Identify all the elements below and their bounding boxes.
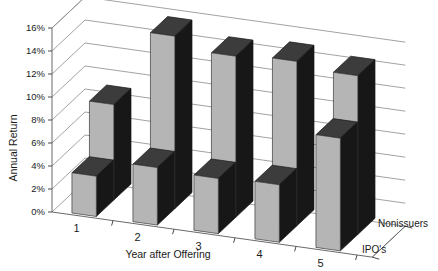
bar-ipos-year-2: [133, 148, 175, 225]
x-tick-label-year-1: 1: [73, 222, 79, 234]
chart-container: 0%2%4%6%8%10%12%14%16% 12345 Annual Retu…: [0, 0, 438, 271]
y-tick-label: 8%: [31, 114, 45, 125]
y-tick-label: 6%: [31, 137, 45, 148]
y-axis-tick-labels: 0%2%4%6%8%10%12%14%16%: [26, 22, 52, 217]
y-tick-label: 10%: [26, 91, 46, 102]
bar-ipos-year-3: [194, 159, 236, 234]
y-tick-label: 12%: [26, 68, 46, 79]
x-tick-label-year-5: 5: [317, 257, 323, 269]
y-tick-label: 4%: [31, 160, 45, 171]
series-label-nonissuers: Nonissuers: [378, 218, 428, 229]
x-tick-label-year-4: 4: [256, 248, 262, 260]
x-axis-title: Year after Offering: [125, 248, 210, 260]
y-axis-title: Annual Return: [7, 114, 19, 181]
bar-ipos-year-1: [72, 157, 114, 217]
y-tick-label: 0%: [31, 206, 45, 217]
y-tick-label: 14%: [26, 45, 46, 56]
y-tick-label: 2%: [31, 183, 45, 194]
bar-ipos-year-5: [316, 119, 358, 251]
bar-chart-3d: 0%2%4%6%8%10%12%14%16% 12345 Annual Retu…: [0, 0, 438, 271]
series-label-ipos: IPO's: [362, 244, 386, 255]
y-tick-label: 16%: [26, 22, 46, 33]
bar-ipos-year-4: [255, 165, 297, 242]
chart-bars: [72, 17, 375, 251]
x-tick-label-year-2: 2: [134, 231, 140, 243]
